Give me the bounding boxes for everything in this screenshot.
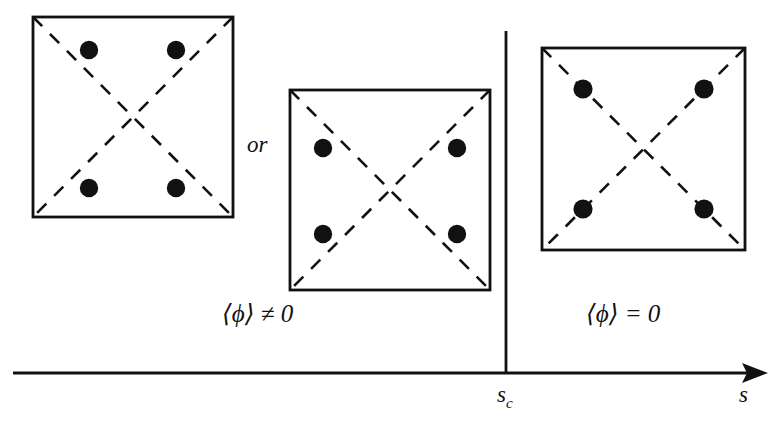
s-axis-variable-label: s xyxy=(739,383,748,406)
particle-dot xyxy=(314,225,332,243)
particle-dot xyxy=(167,41,185,59)
particle-dot xyxy=(80,41,98,59)
particle-dot xyxy=(694,79,713,98)
box-disordered xyxy=(542,48,745,250)
phase-diagram-figure: or ⟨ϕ⟩ ≠ 0 ⟨ϕ⟩ = 0 sc s xyxy=(0,0,776,431)
critical-point-label: sc xyxy=(497,383,513,411)
particle-dot xyxy=(694,199,713,218)
disordered-phase-label: ⟨ϕ⟩ = 0 xyxy=(586,301,660,326)
particle-dot xyxy=(448,139,466,157)
particle-dot xyxy=(167,179,185,197)
critical-point-base: s xyxy=(497,382,506,407)
phase-diagram-canvas xyxy=(0,0,776,431)
ordered-phase-text: ⟨ϕ⟩ ≠ 0 xyxy=(222,300,293,327)
particle-dot xyxy=(314,139,332,157)
particle-dot xyxy=(80,179,98,197)
particle-dot xyxy=(448,225,466,243)
box-ordered-b xyxy=(290,90,490,290)
disordered-phase-text: ⟨ϕ⟩ = 0 xyxy=(586,300,660,327)
particle-dot xyxy=(573,79,592,98)
ordered-phase-label: ⟨ϕ⟩ ≠ 0 xyxy=(222,301,293,326)
critical-point-subscript: c xyxy=(506,395,513,411)
particle-dot xyxy=(573,199,592,218)
box-ordered-a xyxy=(33,17,233,217)
or-connector-label: or xyxy=(247,133,267,156)
